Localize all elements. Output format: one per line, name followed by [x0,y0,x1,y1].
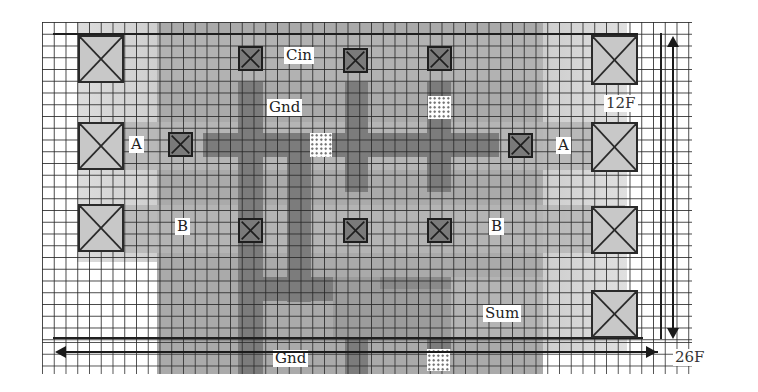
dimension-height-label: 12F [604,95,638,112]
label-cin: Cin [284,47,314,64]
arrowhead-down-icon [666,328,680,340]
b-row-band [125,205,625,253]
metal-horizontal-a [203,133,499,157]
io-pad-right-2 [591,122,638,172]
contact-dotted-1 [310,133,332,157]
via-cin-2 [343,48,368,73]
contact-dotted-2 [428,96,451,119]
arrowhead-right-icon [646,346,658,358]
io-pad-left-2 [78,122,124,170]
via-a-right [508,133,533,158]
label-b-left: B [175,218,190,235]
height-dimension-line [672,40,674,330]
metal-horizontal-lower [238,277,333,301]
full-adder-layout-diagram: Cin Gnd A A B B Sum Gnd 12F 26F [0,0,758,392]
via-a-left [168,132,193,157]
io-pad-right-3 [591,206,638,254]
via-b-1 [238,218,263,243]
dimension-width-label: 26F [673,349,707,366]
metal-bottom-gnd-2 [345,337,368,374]
label-a-right: A [556,137,571,154]
via-b-3 [427,218,452,243]
cell-boundary-bottom [53,337,643,339]
io-pad-right-1 [591,35,638,85]
via-cin-1 [238,46,263,71]
label-b-right: B [489,218,504,235]
io-pad-right-4 [591,290,638,338]
label-a-left: A [129,136,144,153]
cell-boundary-top [53,33,638,35]
metal-sum-top-strip [380,277,451,289]
arrowhead-left-icon [55,346,67,358]
io-pad-left-3 [78,204,124,252]
label-sum: Sum [483,305,521,322]
via-b-2 [343,218,368,243]
label-gnd-top: Gnd [267,99,302,116]
io-pad-left-1 [78,35,124,83]
metal-vertical-1 [238,82,263,302]
arrowhead-up-icon [666,36,680,48]
cell-boundary-right [660,33,662,339]
via-cin-3 [427,46,452,71]
width-dimension-line [58,351,658,353]
